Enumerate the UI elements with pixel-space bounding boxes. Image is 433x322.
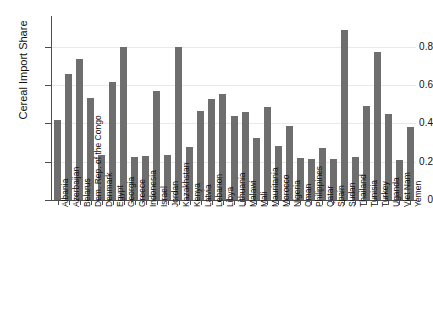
chart-figure: Cereal Import Share 00.20.40.60.8 Albani… (0, 0, 433, 322)
x-tick-mark (267, 201, 268, 205)
x-tick-mark (278, 201, 279, 205)
gridline (52, 85, 416, 86)
x-tick-mark (366, 201, 367, 205)
x-tick-mark (234, 201, 235, 205)
x-tick-mark (135, 201, 136, 205)
x-tick-mark (157, 201, 158, 205)
x-tick-mark (190, 201, 191, 205)
x-tick-mark (146, 201, 147, 205)
x-tick-mark (102, 201, 103, 205)
x-tick-mark (113, 201, 114, 205)
x-tick-mark (245, 201, 246, 205)
bar (341, 30, 348, 201)
x-tick-mark (58, 201, 59, 205)
x-tick-mark (69, 201, 70, 205)
x-tick-mark (377, 201, 378, 205)
x-tick-mark (289, 201, 290, 205)
x-tick-label: Yemen (414, 181, 423, 207)
y-axis-label: Cereal Import Share (14, 0, 32, 170)
x-tick-mark (223, 201, 224, 205)
x-tick-mark (124, 201, 125, 205)
x-tick-mark (333, 201, 334, 205)
x-tick-mark (300, 201, 301, 205)
x-tick-mark (322, 201, 323, 205)
gridline (52, 47, 416, 48)
x-tick-mark (399, 201, 400, 205)
x-tick-mark (355, 201, 356, 205)
x-tick-mark (311, 201, 312, 205)
x-tick-mark (212, 201, 213, 205)
x-tick-mark (256, 201, 257, 205)
x-tick-mark (168, 201, 169, 205)
x-tick-mark (388, 201, 389, 205)
x-tick-mark (344, 201, 345, 205)
x-tick-mark (80, 201, 81, 205)
x-tick-label: Dem. Rep. of the Congo (94, 115, 103, 207)
bar (374, 52, 381, 200)
x-tick-mark (91, 201, 92, 205)
x-tick-mark (179, 201, 180, 205)
x-tick-mark (410, 201, 411, 205)
x-tick-mark (201, 201, 202, 205)
